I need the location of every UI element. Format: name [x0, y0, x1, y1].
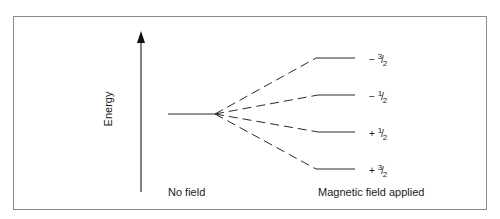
energy-axis-arrow	[137, 31, 145, 192]
level-sign: +	[369, 128, 375, 139]
level-sign: −	[369, 91, 375, 102]
level-label-plus-3-2: + 3/2	[369, 162, 387, 181]
energy-level-diagram	[0, 0, 500, 219]
split-levels	[316, 58, 355, 169]
field-applied-label: Magnetic field applied	[318, 186, 424, 198]
level-sign: −	[369, 54, 375, 65]
level-label-plus-1-2: + 1/2	[369, 125, 387, 144]
splitting-lines	[215, 58, 318, 169]
level-sign: +	[369, 165, 375, 176]
level-label-minus-1-2: − 1/2	[369, 88, 387, 107]
no-field-label: No field	[168, 186, 205, 198]
energy-axis-label: Energy	[102, 92, 114, 127]
level-label-minus-3-2: − 3/2	[369, 51, 387, 70]
